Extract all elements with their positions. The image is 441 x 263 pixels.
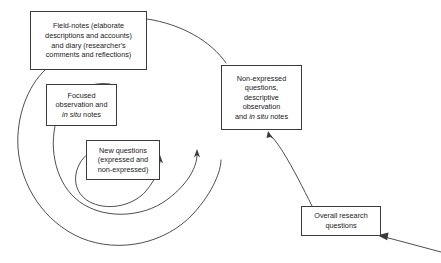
new-questions-line-2: (expressed and (90, 155, 156, 165)
focused-line-2: observation and (50, 100, 113, 110)
overall-to-nonexpressed-arc (271, 136, 312, 206)
non-expressed-questions-box[interactable]: Non-expressed questions, descriptive obs… (221, 65, 302, 130)
outer-spiral-arc-top (147, 19, 226, 63)
new-questions-line-1: New questions (90, 146, 156, 156)
focused-line-1: Focused (50, 91, 113, 101)
non-expressed-in-situ-italic: in situ (249, 112, 268, 121)
non-expressed-line-5-before: and (235, 112, 249, 121)
spiral-diagram: Field-notes (elaborate descriptions and … (0, 0, 441, 263)
non-expressed-line-4: observation (225, 102, 298, 112)
overall-research-questions-box[interactable]: Overall research questions (301, 206, 381, 236)
non-expressed-line-5-after: notes (268, 112, 288, 121)
non-expressed-line-1: Non-expressed (225, 74, 298, 84)
new-questions-box[interactable]: New questions (expressed and non-express… (86, 140, 160, 180)
field-notes-box[interactable]: Field-notes (elaborate descriptions and … (30, 11, 147, 70)
field-notes-line-1: Field-notes (elaborate (34, 21, 143, 31)
focused-line-3: in situ notes (50, 110, 113, 120)
overall-line-1: Overall research (305, 211, 377, 221)
non-expressed-line-3: descriptive (225, 93, 298, 103)
field-notes-line-2: descriptions and accounts) (34, 31, 143, 41)
focused-line-3-after: notes (81, 110, 101, 119)
field-notes-line-3: and diary (researcher's (34, 41, 143, 51)
non-expressed-line-5: and in situ notes (225, 112, 298, 122)
new-questions-line-3: non-expressed) (90, 165, 156, 175)
overall-arrowhead (267, 131, 274, 139)
focused-observation-box[interactable]: Focused observation and in situ notes (46, 84, 117, 126)
field-notes-line-4: comments and reflections) (34, 50, 143, 60)
overall-line-2: questions (305, 221, 377, 231)
focused-in-situ-italic: in situ (62, 110, 81, 119)
spiral-tail-line (381, 236, 441, 252)
non-expressed-line-2: questions, (225, 83, 298, 93)
